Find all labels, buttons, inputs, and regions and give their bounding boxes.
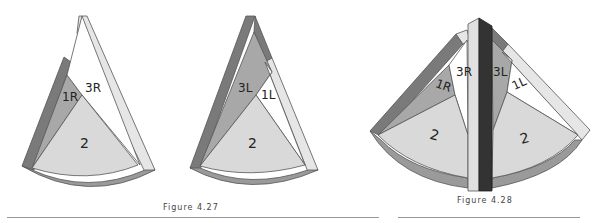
label-2: 2 (248, 135, 257, 151)
septum-dark (479, 18, 492, 191)
figure-4-28: 1R 3R 3L 1L 2 2 (370, 18, 590, 191)
diagram-canvas: 1R 3R 2 3L 1L 2 1R 3R 3L (0, 0, 616, 223)
divider-figure-4-28 (398, 217, 580, 218)
label-3L: 3L (238, 81, 253, 95)
label-3R: 3R (85, 81, 101, 95)
label-1L: 1L (261, 88, 276, 102)
label-2: 2 (80, 135, 89, 151)
label-3R: 3R (456, 65, 472, 79)
figure-4-27-panel-a: 1R 3R 2 (22, 16, 155, 187)
figure-4-27-panel-b: 3L 1L 2 (190, 16, 318, 185)
label-1R: 1R (62, 90, 78, 104)
label-3L: 3L (493, 65, 508, 79)
divider-figure-4-27 (7, 217, 379, 218)
septum-light (468, 18, 479, 191)
caption-figure-4-27: Figure 4.27 (163, 203, 219, 212)
caption-figure-4-28: Figure 4.28 (457, 196, 513, 205)
